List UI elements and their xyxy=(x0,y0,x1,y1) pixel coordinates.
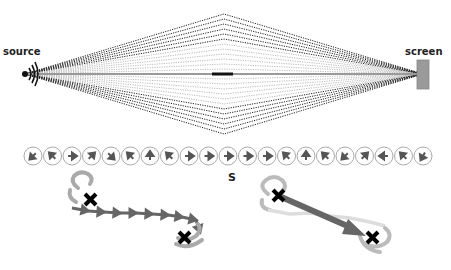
chain-arrow xyxy=(168,212,183,221)
phasor xyxy=(161,147,179,165)
phasor xyxy=(141,147,159,165)
ray-path xyxy=(25,74,423,129)
phasor-sum-left xyxy=(70,172,204,246)
phasor-arrow-icon xyxy=(319,150,330,161)
phasor xyxy=(239,147,257,165)
phasor xyxy=(180,147,198,165)
phasor xyxy=(102,147,120,165)
phasor xyxy=(122,147,140,165)
arrow-chain xyxy=(71,205,203,234)
phasor xyxy=(278,147,296,165)
screen-rect xyxy=(417,60,429,89)
chain-arrow xyxy=(104,209,120,217)
phasor xyxy=(258,147,276,165)
phasor-arrow-icon xyxy=(359,150,370,161)
phasor-arrow-icon xyxy=(147,151,154,160)
phasor xyxy=(200,147,218,165)
phasor-arrow-icon xyxy=(263,153,272,160)
phasor-arrow-icon xyxy=(46,150,57,161)
phasor-arrow-icon xyxy=(163,150,174,161)
phasor-arrow-icon xyxy=(303,151,310,160)
cross-end-right-icon xyxy=(367,232,378,243)
chain-arrow xyxy=(88,208,104,216)
phasor xyxy=(414,147,432,165)
phasor xyxy=(375,147,393,165)
phasor-arrow-icon xyxy=(106,151,117,162)
s-label: S xyxy=(228,171,236,184)
diagram-canvas: source screen S xyxy=(0,0,451,270)
phasor xyxy=(395,147,413,165)
chain-arrow xyxy=(181,214,196,224)
chain-arrow xyxy=(136,210,152,218)
phasor-arrow-icon xyxy=(68,153,77,160)
phasor xyxy=(297,147,315,165)
phasor-arrow-icon xyxy=(339,151,350,162)
cross-start-icon xyxy=(85,194,96,205)
phasor-arrow-icon xyxy=(205,153,214,160)
phasor-row xyxy=(24,147,432,165)
phasor xyxy=(219,147,237,165)
phasor-arrow-icon xyxy=(244,153,253,160)
phasor-arrow-icon xyxy=(280,150,291,161)
phasor-arrow-icon xyxy=(224,153,233,160)
phasor-arrow-icon xyxy=(86,150,97,161)
phasor-arrow-icon xyxy=(417,151,428,162)
phasor xyxy=(24,147,42,165)
phasor xyxy=(83,147,101,165)
source-label: source xyxy=(3,46,41,57)
ray-path xyxy=(25,29,423,74)
phasor-arrow-icon xyxy=(185,153,194,160)
phasor-arrow-icon xyxy=(379,153,388,160)
phasor xyxy=(336,147,354,165)
phasor-arrow-icon xyxy=(27,151,38,162)
phasor xyxy=(317,147,335,165)
ray-path xyxy=(25,19,423,74)
phasor xyxy=(63,147,81,165)
phasor xyxy=(44,147,62,165)
phasor-sum-right xyxy=(262,177,390,252)
phasor xyxy=(356,147,374,165)
resultant-arrow xyxy=(279,196,366,236)
chain-arrow xyxy=(120,210,136,217)
phasor-arrow-icon xyxy=(397,150,408,161)
phasor-arrow-icon xyxy=(124,150,135,161)
ray-path xyxy=(25,74,423,119)
screen-label: screen xyxy=(405,46,443,57)
chain-arrow xyxy=(152,211,168,219)
